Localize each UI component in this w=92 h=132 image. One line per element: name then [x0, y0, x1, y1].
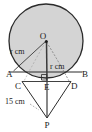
- point-label-e: E: [44, 82, 50, 92]
- geometry-figure: O A B C D E P r cm r cm 15 cm: [0, 0, 92, 132]
- point-label-p: P: [44, 120, 49, 130]
- point-label-a: A: [6, 69, 13, 79]
- point-label-c: C: [15, 81, 21, 91]
- point-label-o: O: [40, 31, 47, 41]
- measurement-label-slant-length: 15 cm: [5, 97, 26, 106]
- geometry-diagram-canvas: O A B C D E P r cm r cm 15 cm: [0, 0, 92, 132]
- point-label-d: D: [71, 81, 78, 91]
- triangle-side-dp: [47, 82, 71, 119]
- measurement-label-radius-left: r cm: [10, 47, 25, 56]
- point-label-b: B: [82, 69, 88, 79]
- measurement-label-radius-vertical: r cm: [50, 62, 65, 71]
